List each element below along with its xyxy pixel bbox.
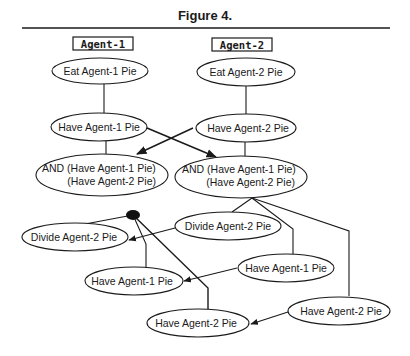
- svg-text:Have Agent-1 Pie: Have Agent-1 Pie: [58, 121, 140, 133]
- node-have-agent1-left: Have Agent-1 Pie: [85, 267, 183, 295]
- agent1-header: Agent-1: [73, 37, 133, 50]
- node-and-left: AND (Have Agent-1 Pie) (Have Agent-2 Pie…: [36, 154, 168, 196]
- node-eat-agent2: Eat Agent-2 Pie: [197, 58, 295, 86]
- arrow-have1-right-to-left: [184, 268, 237, 281]
- figure-4: Figure 4. Agent-1 Agent-2: [0, 0, 410, 356]
- edge-andright-divide: [232, 198, 252, 212]
- svg-text:Eat Agent-1 Pie: Eat Agent-1 Pie: [64, 65, 137, 77]
- svg-text:Have Agent-2 Pie: Have Agent-2 Pie: [207, 122, 289, 134]
- edge-dot-have1left: [133, 215, 146, 267]
- node-divide-right: Divide Agent-2 Pie: [175, 212, 281, 240]
- edge-dot-divideleft: [85, 215, 133, 224]
- svg-text:Divide Agent-2 Pie: Divide Agent-2 Pie: [185, 220, 272, 232]
- svg-text:Have Agent-1 Pie: Have Agent-1 Pie: [91, 275, 173, 287]
- node-have-agent1-right: Have Agent-1 Pie: [238, 254, 334, 282]
- svg-text:Eat Agent-2 Pie: Eat Agent-2 Pie: [210, 66, 283, 78]
- svg-text:(Have Agent-2 Pie): (Have Agent-2 Pie): [206, 176, 295, 188]
- node-have-agent1-top: Have Agent-1 Pie: [51, 113, 147, 141]
- svg-text:Have Agent-2 Pie: Have Agent-2 Pie: [155, 317, 237, 329]
- agent2-label: Agent-2: [220, 39, 264, 51]
- svg-text:AND (Have Agent-1 Pie): AND (Have Agent-1 Pie): [182, 163, 296, 175]
- join-dot: [126, 210, 140, 220]
- plan-diagram: Agent-1 Agent-2: [0, 0, 410, 356]
- node-divide-left: Divide Agent-2 Pie: [22, 223, 128, 251]
- agent1-label: Agent-1: [81, 38, 125, 50]
- svg-text:Have Agent-1 Pie: Have Agent-1 Pie: [245, 262, 327, 274]
- svg-text:(Have Agent-2 Pie): (Have Agent-2 Pie): [67, 175, 156, 187]
- arrow-have2-right-to-bottom: [251, 312, 288, 324]
- node-have-agent2-right: Have Agent-2 Pie: [288, 297, 390, 325]
- svg-text:Divide Agent-2 Pie: Divide Agent-2 Pie: [31, 231, 118, 243]
- node-have-agent2-top: Have Agent-2 Pie: [196, 114, 296, 142]
- svg-text:Have Agent-2 Pie: Have Agent-2 Pie: [300, 305, 382, 317]
- arrow-have2-to-andleft: [137, 128, 193, 154]
- svg-text:AND (Have Agent-1 Pie): AND (Have Agent-1 Pie): [42, 162, 156, 174]
- node-eat-agent1: Eat Agent-1 Pie: [52, 58, 148, 84]
- node-and-right: AND (Have Agent-1 Pie) (Have Agent-2 Pie…: [175, 156, 307, 198]
- agent2-header: Agent-2: [212, 38, 272, 51]
- node-have-agent2-bottom: Have Agent-2 Pie: [147, 309, 249, 337]
